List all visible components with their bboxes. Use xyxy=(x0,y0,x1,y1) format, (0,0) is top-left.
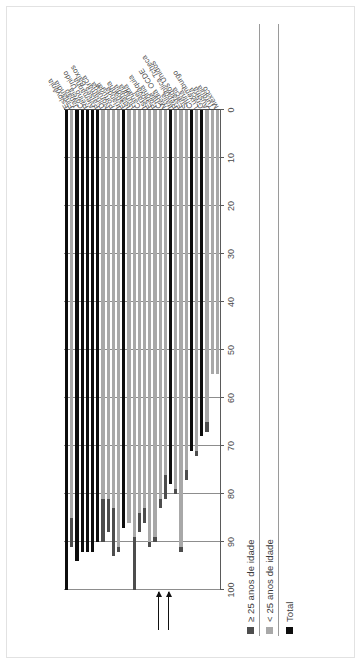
bar-segment-younger xyxy=(132,110,135,537)
bar-segment-younger xyxy=(70,110,73,518)
bar-track xyxy=(91,110,94,590)
bar-chart-figure: ≥ 25 anos de idade< 25 anos de idadeTota… xyxy=(56,20,306,644)
bar-row[interactable] xyxy=(69,110,74,590)
bar-row[interactable] xyxy=(64,110,69,590)
value-tick-80 xyxy=(220,493,224,494)
value-tick-label-100: 100 xyxy=(226,582,236,597)
value-tick-label-60: 60 xyxy=(226,393,236,403)
bar-segment-total xyxy=(75,110,78,561)
bar-track xyxy=(127,110,130,590)
value-tick-label-80: 80 xyxy=(226,489,236,499)
category-axis-labels: EslovêniaFinlândiaJapãoCoreiaReino Unido… xyxy=(64,24,220,110)
bar-row[interactable] xyxy=(100,110,105,590)
bar-segment-total xyxy=(169,110,172,484)
bar-row[interactable] xyxy=(84,110,89,590)
bar-segment-older xyxy=(195,451,198,456)
bar-segment-total xyxy=(80,110,83,552)
bar-segment-older xyxy=(148,542,151,547)
bar-track xyxy=(153,110,156,590)
bar-segment-total xyxy=(91,110,94,552)
bar-segment-younger xyxy=(137,110,140,513)
bar-row[interactable] xyxy=(183,110,188,590)
value-tick-label-30: 30 xyxy=(226,249,236,259)
bar-row[interactable] xyxy=(157,110,162,590)
arrow-estados-unidos xyxy=(167,592,168,630)
bar-row[interactable] xyxy=(147,110,152,590)
bar-row[interactable] xyxy=(204,110,209,590)
value-tick-label-20: 20 xyxy=(226,201,236,211)
legend-label-young: < 25 anos de idade xyxy=(264,539,275,622)
bar-row[interactable] xyxy=(178,110,183,590)
bar-row[interactable] xyxy=(126,110,131,590)
bar-track xyxy=(158,110,161,590)
value-tick-label-0: 0 xyxy=(226,107,236,112)
value-tick-70 xyxy=(220,445,224,446)
value-tick-20 xyxy=(220,205,224,206)
bar-row[interactable] xyxy=(194,110,199,590)
bar-track xyxy=(184,110,187,590)
bar-segment-older xyxy=(106,499,109,533)
legend-item-old[interactable]: ≥ 25 anos de idade xyxy=(242,24,260,636)
bar-segment-older xyxy=(132,537,135,590)
bar-track xyxy=(122,110,125,590)
bar-row[interactable] xyxy=(199,110,204,590)
legend-item-young[interactable]: < 25 anos de idade xyxy=(261,24,279,636)
bar-track xyxy=(117,110,120,590)
bar-row[interactable] xyxy=(95,110,100,590)
value-tick-label-40: 40 xyxy=(226,297,236,307)
bar-segment-older xyxy=(179,547,182,552)
bar-row[interactable] xyxy=(110,110,115,590)
bar-segment-younger xyxy=(174,110,177,489)
value-axis-line xyxy=(220,110,221,590)
bar-track xyxy=(215,110,218,590)
bar-row[interactable] xyxy=(142,110,147,590)
bar-row[interactable] xyxy=(209,110,214,590)
bar-segment-older xyxy=(174,489,177,494)
bar-row[interactable] xyxy=(79,110,84,590)
bar-segment-younger xyxy=(101,110,104,499)
plot-area: EslovêniaFinlândiaJapãoCoreiaReino Unido… xyxy=(64,24,240,636)
value-tick-30 xyxy=(220,253,224,254)
chart-legend: ≥ 25 anos de idade< 25 anos de idadeTota… xyxy=(242,24,300,636)
bar-row[interactable] xyxy=(131,110,136,590)
bar-segment-older xyxy=(137,513,140,532)
bar-segment-older xyxy=(184,470,187,480)
bar-row[interactable] xyxy=(162,110,167,590)
bar-segment-younger xyxy=(184,110,187,470)
bar-track xyxy=(143,110,146,590)
bar-row[interactable] xyxy=(136,110,141,590)
bar-track xyxy=(163,110,166,590)
value-tick-100 xyxy=(220,589,224,590)
bar-segment-younger xyxy=(163,110,166,475)
bar-segment-total xyxy=(96,110,99,542)
bar-row[interactable] xyxy=(188,110,193,590)
legend-label-total: Total xyxy=(283,601,294,622)
bar-row[interactable] xyxy=(168,110,173,590)
value-tick-label-10: 10 xyxy=(226,153,236,163)
bar-row[interactable] xyxy=(74,110,79,590)
legend-swatch-young-icon xyxy=(266,627,273,634)
bar-track xyxy=(96,110,99,590)
bar-track xyxy=(210,110,213,590)
bar-segment-total xyxy=(200,110,203,436)
value-axis: 0102030405060708090100 xyxy=(220,110,240,590)
bar-segment-younger xyxy=(111,110,114,508)
value-tick-90 xyxy=(220,541,224,542)
bar-track xyxy=(179,110,182,590)
bar-row[interactable] xyxy=(105,110,110,590)
bar-track xyxy=(80,110,83,590)
legend-label-old: ≥ 25 anos de idade xyxy=(245,539,256,622)
bar-segment-younger xyxy=(210,110,213,374)
bar-track xyxy=(148,110,151,590)
bar-row[interactable] xyxy=(116,110,121,590)
bar-row[interactable] xyxy=(214,110,219,590)
bar-segment-younger xyxy=(205,110,208,422)
bar-row[interactable] xyxy=(90,110,95,590)
bar-track xyxy=(189,110,192,590)
bar-row[interactable] xyxy=(152,110,157,590)
legend-item-total[interactable]: Total xyxy=(280,24,298,636)
bar-row[interactable] xyxy=(121,110,126,590)
bar-track xyxy=(169,110,172,590)
bar-track xyxy=(205,110,208,590)
bar-row[interactable] xyxy=(173,110,178,590)
